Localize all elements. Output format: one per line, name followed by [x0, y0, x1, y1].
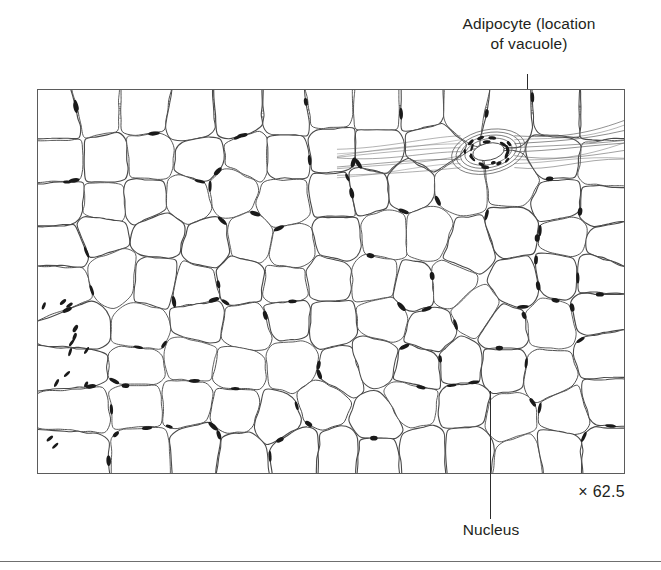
- adipocyte-cell: [580, 90, 624, 140]
- adipocyte-cell: [361, 210, 407, 260]
- callout-label-adipocyte: Adipocyte (location of vacuole): [404, 14, 654, 54]
- adipocyte-cell: [532, 90, 581, 138]
- adipose-tissue-micrograph: [38, 90, 624, 473]
- adipocyte-cell: [446, 426, 495, 473]
- leader-line-nucleus: [490, 391, 491, 519]
- adipocyte-cell: [309, 300, 357, 349]
- adipocyte-cell: [169, 301, 224, 343]
- adipocyte-cell: [352, 254, 397, 302]
- adipocyte-cell: [169, 422, 220, 473]
- nucleus: [370, 436, 378, 441]
- adipocyte-cell: [571, 293, 624, 335]
- adipocyte-cell: [38, 182, 84, 228]
- adipocyte-cell: [353, 438, 402, 473]
- adipocyte-cell: [111, 303, 171, 350]
- adipocyte-cell: [109, 385, 163, 429]
- adipocyte-cell: [84, 132, 128, 182]
- adipocyte-cell: [399, 425, 447, 473]
- adipocyte-cell: [262, 90, 309, 136]
- adipocyte-cell: [535, 253, 577, 300]
- magnification-label: × 62.5: [465, 483, 625, 501]
- adipocyte-cell: [582, 427, 624, 473]
- adipocyte-cell: [38, 345, 108, 392]
- adipocyte-cell: [210, 388, 260, 433]
- adipocyte-cell: [108, 346, 165, 384]
- adipocyte-cell: [38, 429, 110, 473]
- adipocyte-cell: [579, 185, 624, 226]
- bottom-divider-rule: [0, 561, 661, 562]
- adipocyte-cell: [134, 257, 177, 310]
- adipocyte-cell: [111, 427, 171, 473]
- adipocyte-cell: [38, 139, 83, 185]
- adipocyte-cell: [531, 179, 581, 221]
- adipocyte-cell: [525, 298, 576, 349]
- adipocyte-cell: [538, 217, 587, 257]
- adipocyte-cell: [438, 383, 490, 428]
- adipocyte-cell: [306, 256, 351, 302]
- adipocyte-cell: [38, 387, 111, 433]
- adipocyte-cell: [267, 135, 310, 179]
- adipocyte-cell: [312, 217, 361, 261]
- adipocyte-cell: [120, 90, 173, 135]
- adipocyte-cell: [127, 133, 175, 179]
- adipocyte-cell: [166, 90, 216, 141]
- figure-root: Adipocyte (location of vacuole) × 62.5 N…: [0, 0, 661, 570]
- adipocyte-cell: [263, 265, 309, 303]
- adipocyte-cell: [315, 426, 358, 473]
- adipocyte-cell: [216, 256, 264, 305]
- adipocyte-cell: [83, 183, 126, 222]
- adipocyte-cell: [162, 381, 213, 429]
- adipocyte-cell: [164, 337, 217, 381]
- adipocyte-cell: [537, 430, 582, 473]
- nucleus: [596, 292, 604, 296]
- nucleus: [496, 346, 503, 351]
- adipocyte-cell: [304, 90, 355, 129]
- adipocyte-cell: [212, 346, 266, 389]
- adipocyte-cell: [354, 90, 401, 130]
- adipocyte-cell-group: [38, 90, 624, 473]
- adipocyte-cell: [481, 349, 527, 394]
- callout-label-nucleus: Nucleus: [406, 520, 576, 540]
- adipocyte-cell: [573, 329, 624, 379]
- micrograph-panel: [37, 89, 625, 474]
